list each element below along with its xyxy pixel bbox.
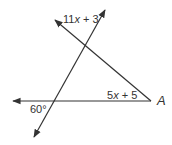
geometry-diagram: 11x + 3 5x + 5 60° A	[0, 0, 172, 145]
top-angle-rest: + 3	[80, 13, 99, 25]
bottom-angle-label: 60°	[30, 104, 47, 115]
right-angle-label: 5x + 5	[107, 90, 137, 101]
vertex-a-label: A	[157, 94, 166, 107]
top-angle-coef: 11	[63, 13, 74, 25]
top-angle-label: 11x + 3	[63, 14, 99, 25]
transversal-line	[34, 10, 105, 137]
right-angle-rest: + 5	[119, 89, 138, 101]
